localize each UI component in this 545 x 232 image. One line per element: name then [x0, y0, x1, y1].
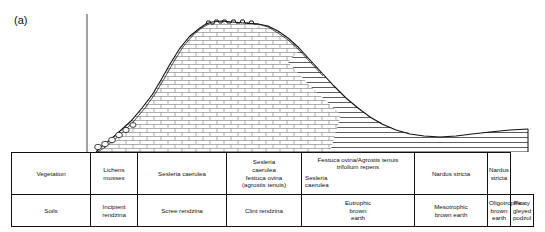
vegetation-cell-4: Festuca ovina/Agrostis tenuistrifolium r… [302, 153, 415, 195]
soils-cell-3: Clint rendzina [227, 195, 302, 227]
soils-cell-1: Incipientrendzina [91, 195, 138, 227]
soils-cell-7: Peaty gleyedpodzol [511, 195, 534, 227]
vegetation-cell-6: Nardus stricta [488, 153, 511, 195]
vegetation-cell-4-bottom: Sesleriacaerulea [303, 174, 413, 195]
vegetation-cell-3: Sesleriacaeruleafestuca ovina(agrostis t… [227, 153, 302, 195]
vegetation-soils-table: Vegetation Lichensmosses Sesleria caerul… [11, 152, 534, 227]
soils-cell-6: Oligotrophicbrown earth [488, 195, 511, 227]
row-header-vegetation: Vegetation [12, 153, 91, 195]
figure-panel: (a) [0, 0, 545, 232]
vegetation-cell-5: Nardus stricta [415, 153, 488, 195]
vegetation-cell-2: Sesleria caerulea [138, 153, 227, 195]
shale-unit [320, 90, 545, 160]
table-row-vegetation: Vegetation Lichensmosses Sesleria caerul… [12, 153, 534, 195]
row-header-soils: Soils [12, 195, 91, 227]
soils-cell-2: Scree rendzina [138, 195, 227, 227]
vegetation-cell-4-top: Festuca ovina/Agrostis tenuistrifolium r… [303, 153, 413, 174]
vegetation-cell-1: Lichensmosses [91, 153, 138, 195]
soils-cell-4: Eutrophicbrownearth [302, 195, 415, 227]
soils-cell-5: Mesotrophicbrown earth [415, 195, 488, 227]
table-row-soils: Soils Incipientrendzina Scree rendzina C… [12, 195, 534, 227]
